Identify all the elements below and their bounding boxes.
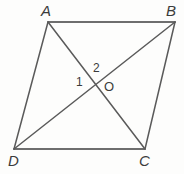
diagonal-AC [48, 22, 145, 149]
diagonal-BD [14, 22, 175, 149]
vertex-label-d: D [8, 153, 19, 168]
angle-label-1: 1 [76, 76, 83, 88]
geometry-figure: A B C D 1 2 O [0, 0, 184, 174]
parallelogram-diagonals [14, 22, 175, 149]
side-DA [14, 22, 48, 149]
parallelogram-diagram [0, 0, 184, 174]
vertex-label-c: C [139, 153, 150, 168]
intersection-label-o: O [104, 80, 114, 93]
vertex-label-b: B [166, 3, 176, 18]
vertex-label-a: A [41, 3, 51, 18]
angle-label-2: 2 [93, 62, 100, 74]
side-BC [145, 22, 175, 149]
